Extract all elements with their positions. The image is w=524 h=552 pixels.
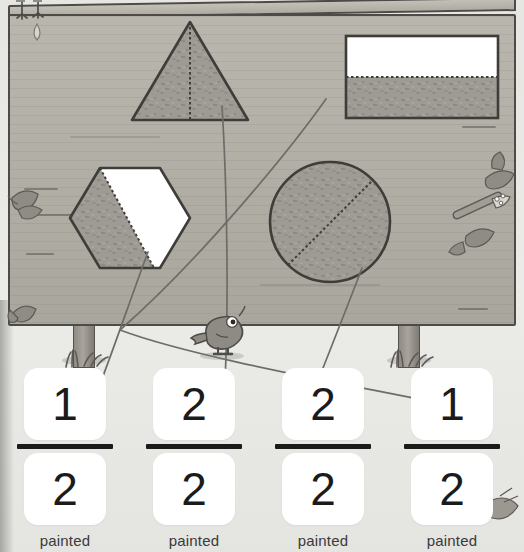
- answer-card-1[interactable]: 1 2 painted: [6, 368, 124, 549]
- wooden-board: [8, 14, 516, 326]
- card-caption: painted: [135, 532, 253, 549]
- numerator-tile[interactable]: 2: [282, 368, 364, 440]
- fraction-bar: [404, 444, 500, 449]
- answer-card-4[interactable]: 1 2 painted: [393, 368, 511, 549]
- answer-card-3[interactable]: 2 2 painted: [264, 368, 382, 549]
- board-post-left: [73, 320, 95, 368]
- numerator-tile[interactable]: 2: [153, 368, 235, 440]
- fraction-bar: [146, 444, 242, 449]
- board-post-right: [398, 320, 420, 368]
- fraction-bar: [17, 444, 113, 449]
- answer-card-2[interactable]: 2 2 painted: [135, 368, 253, 549]
- denominator-tile[interactable]: 2: [24, 453, 106, 525]
- worksheet-canvas: 1 2 painted 2 2 painted 2 2 painted 1 2 …: [0, 0, 524, 552]
- denominator-tile[interactable]: 2: [153, 453, 235, 525]
- card-caption: painted: [6, 532, 124, 549]
- denominator-tile[interactable]: 2: [282, 453, 364, 525]
- answer-cards-row: 1 2 painted 2 2 painted 2 2 painted 1 2 …: [0, 368, 524, 552]
- fraction-bar: [275, 444, 371, 449]
- numerator-tile[interactable]: 1: [24, 368, 106, 440]
- denominator-tile[interactable]: 2: [411, 453, 493, 525]
- numerator-tile[interactable]: 1: [411, 368, 493, 440]
- card-caption: painted: [393, 532, 511, 549]
- card-caption: painted: [264, 532, 382, 549]
